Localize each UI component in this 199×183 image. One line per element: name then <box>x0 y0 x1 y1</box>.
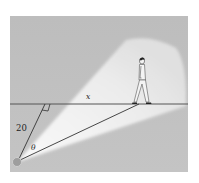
diagram: 20 θ x <box>0 0 199 183</box>
perpendicular-distance-label: 20 <box>16 123 27 133</box>
angle-label: θ <box>31 143 36 152</box>
light-source <box>13 158 22 167</box>
